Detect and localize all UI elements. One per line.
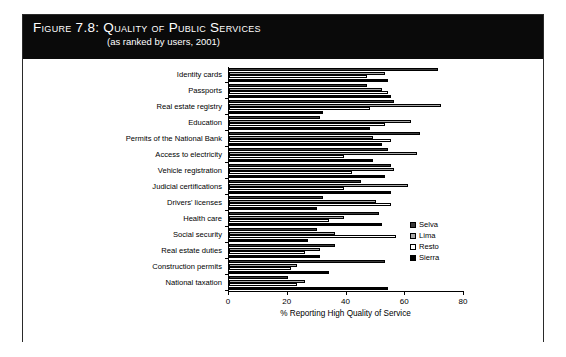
y-axis-category-label: National taxation xyxy=(165,279,222,287)
y-axis-category-label: Real estate duties xyxy=(161,247,222,255)
bar-sierra xyxy=(229,111,323,114)
bar-resto xyxy=(229,219,329,222)
bar-resto xyxy=(229,107,370,110)
bar-resto xyxy=(229,235,396,238)
legend-swatch-icon xyxy=(410,255,416,261)
x-axis-tick xyxy=(346,291,347,295)
y-axis-category-label: Real estate registry xyxy=(157,103,222,111)
bar-resto xyxy=(229,155,344,158)
bar-selva xyxy=(229,212,379,215)
x-axis-tick-label: 20 xyxy=(282,297,291,306)
y-axis-category-label: Vehicle registration xyxy=(158,167,222,175)
bar-sierra xyxy=(229,271,329,274)
bar-lima xyxy=(229,200,376,203)
legend-item-sierra[interactable]: Sierra xyxy=(410,252,439,263)
legend-item-selva[interactable]: Selva xyxy=(410,219,439,230)
y-axis-tick xyxy=(225,130,228,131)
bar-lima xyxy=(229,88,382,91)
y-axis-category-label: Judicial certifications xyxy=(152,183,222,191)
bar-selva xyxy=(229,260,385,263)
legend-label: Lima xyxy=(419,232,435,240)
figure-container: Figure 7.8: Quality of Public Services (… xyxy=(22,14,544,342)
bar-resto xyxy=(229,123,385,126)
chart-canvas: 020406080% Reporting High Quality of Ser… xyxy=(23,59,543,342)
bar-resto xyxy=(229,203,391,206)
bar-lima xyxy=(229,280,305,283)
figure-title: Figure 7.8: Quality of Public Services xyxy=(33,20,543,35)
bar-lima xyxy=(229,168,394,171)
bar-lima xyxy=(229,72,385,75)
bar-sierra xyxy=(229,143,382,146)
bar-sierra xyxy=(229,159,373,162)
legend-item-lima[interactable]: Lima xyxy=(410,230,439,241)
y-axis-tick xyxy=(225,290,228,291)
x-axis-tick-label: 80 xyxy=(459,297,468,306)
bar-lima xyxy=(229,120,411,123)
y-axis-tick xyxy=(225,146,228,147)
bar-selva xyxy=(229,84,367,87)
y-axis-category-label: Passports xyxy=(188,87,222,95)
bar-lima xyxy=(229,264,297,267)
bar-resto xyxy=(229,187,344,190)
x-axis-tick xyxy=(287,291,288,295)
bar-sierra xyxy=(229,207,317,210)
y-axis-tick xyxy=(225,194,228,195)
y-axis-category-label: Social security xyxy=(173,231,222,239)
bar-resto xyxy=(229,251,305,254)
legend-label: Sierra xyxy=(419,254,439,262)
bar-selva xyxy=(229,228,317,231)
x-axis-tick xyxy=(228,291,229,295)
bar-sierra xyxy=(229,95,391,98)
bar-selva xyxy=(229,180,361,183)
y-axis-tick xyxy=(225,98,228,99)
legend-label: Resto xyxy=(419,243,439,251)
bar-sierra xyxy=(229,191,391,194)
bar-selva xyxy=(229,116,320,119)
legend-label: Selva xyxy=(419,221,438,229)
legend-swatch-icon xyxy=(410,244,416,250)
bar-lima xyxy=(229,184,408,187)
y-axis-tick xyxy=(225,82,228,83)
legend-swatch-icon xyxy=(410,222,416,228)
bar-sierra xyxy=(229,223,382,226)
bar-selva xyxy=(229,68,438,71)
bar-sierra xyxy=(229,127,370,130)
bar-resto xyxy=(229,283,297,286)
y-axis-category-label: Access to electricity xyxy=(155,151,222,159)
bar-selva xyxy=(229,132,420,135)
y-axis-category-label: Education xyxy=(188,119,222,127)
bar-selva xyxy=(229,100,394,103)
y-axis-category-label: Permits of the National Bank xyxy=(126,135,222,143)
bar-selva xyxy=(229,244,335,247)
x-axis-tick xyxy=(404,291,405,295)
bar-lima xyxy=(229,216,344,219)
x-axis-title: % Reporting High Quality of Service xyxy=(168,309,523,318)
y-axis-tick xyxy=(225,258,228,259)
y-axis-category-label: Drivers' licenses xyxy=(167,199,222,207)
plot-area: 020406080% Reporting High Quality of Ser… xyxy=(23,59,543,342)
y-axis-tick xyxy=(225,162,228,163)
chart-legend: SelvaLimaRestoSierra xyxy=(410,219,439,263)
legend-item-resto[interactable]: Resto xyxy=(410,241,439,252)
bar-selva xyxy=(229,196,323,199)
bar-sierra xyxy=(229,79,388,82)
y-axis-tick xyxy=(225,226,228,227)
y-axis-tick xyxy=(225,210,228,211)
figure-subtitle: (as ranked by users, 2001) xyxy=(107,36,543,47)
bar-lima xyxy=(229,104,441,107)
bar-lima xyxy=(229,248,320,251)
y-axis-tick xyxy=(225,242,228,243)
bar-resto xyxy=(229,75,367,78)
legend-swatch-icon xyxy=(410,233,416,239)
y-axis-tick xyxy=(225,274,228,275)
bar-lima xyxy=(229,152,417,155)
y-axis-category-label: Construction permits xyxy=(152,263,222,271)
bar-sierra xyxy=(229,287,388,290)
bar-resto xyxy=(229,139,391,142)
y-axis-category-label: Health care xyxy=(183,215,222,223)
x-axis-tick-label: 0 xyxy=(226,297,230,306)
x-axis-tick-label: 60 xyxy=(400,297,409,306)
bar-resto xyxy=(229,267,291,270)
bar-selva xyxy=(229,276,288,279)
bar-resto xyxy=(229,171,352,174)
